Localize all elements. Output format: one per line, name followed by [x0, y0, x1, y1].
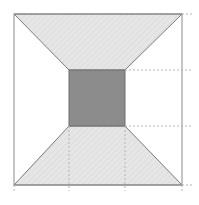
bottom-face — [14, 126, 182, 185]
frustum-diagram — [0, 0, 199, 205]
top-face — [14, 14, 182, 70]
inner-square — [69, 70, 125, 126]
